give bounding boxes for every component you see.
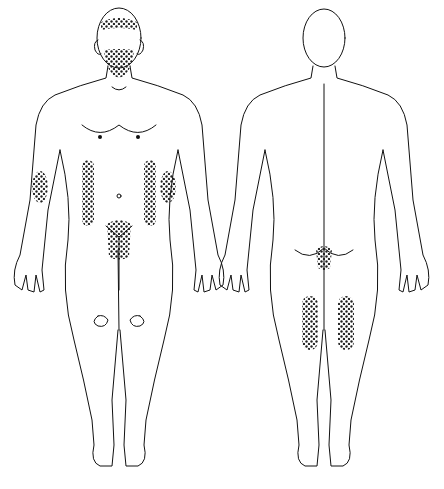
left-posterior-thigh-region <box>302 296 318 350</box>
chin-mark <box>112 87 126 90</box>
figure-caption <box>0 480 444 489</box>
back-view <box>219 9 429 466</box>
figure <box>0 0 444 489</box>
back-head <box>303 9 345 67</box>
body-map-diagram <box>0 0 444 480</box>
right-posterior-thigh-region <box>338 296 354 350</box>
front-view <box>14 8 224 466</box>
right-flank-region <box>144 160 156 226</box>
right-forearm-region <box>160 171 176 203</box>
beard-region <box>104 49 134 78</box>
left-flank-region <box>82 160 94 226</box>
left-forearm-region <box>32 171 48 203</box>
scalp-region <box>101 18 137 30</box>
gluteal-region <box>316 246 332 270</box>
